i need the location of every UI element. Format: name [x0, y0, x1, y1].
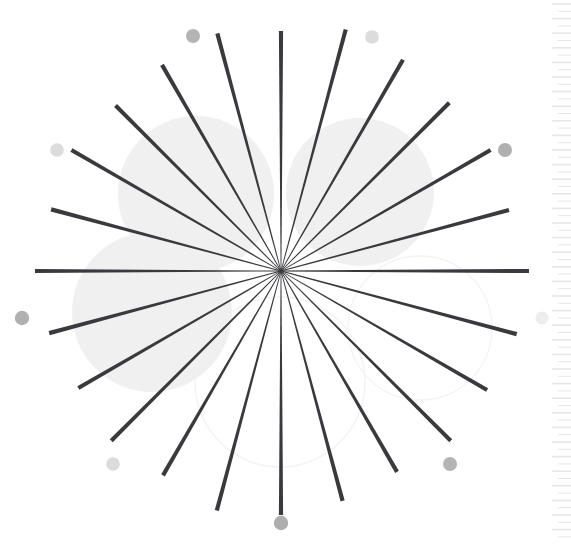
- radial-burst-figure: [0, 0, 571, 547]
- figure-canvas: [0, 0, 571, 547]
- dot-bottom-center: [274, 516, 288, 530]
- dot-top-left: [186, 29, 200, 43]
- dot-mid-left-upper: [50, 143, 64, 157]
- dot-bottom-left: [106, 457, 120, 471]
- dot-mid-right-upper: [498, 143, 512, 157]
- dot-mid-left-lower: [15, 311, 29, 325]
- dot-top-right: [365, 30, 379, 44]
- dot-bottom-right: [443, 457, 457, 471]
- dot-mid-right-lower: [536, 312, 549, 325]
